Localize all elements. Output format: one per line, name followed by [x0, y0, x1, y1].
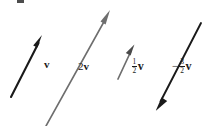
arrow-neg-three-halves-v-head [156, 98, 168, 111]
label-v: v [44, 59, 50, 70]
arrow-half-v-shaft [118, 52, 131, 80]
label-neg-three-halves-v: − 3 2 v [172, 58, 192, 74]
vector-scalar-multiples-figure: v 2v 1 2 v − 3 2 v [0, 0, 208, 126]
label-v-vector: v [44, 58, 50, 70]
arrow-v-shaft [11, 43, 39, 97]
arrow-v [11, 35, 42, 97]
label-2v: 2v [78, 61, 89, 72]
label-2v-vector: v [84, 60, 90, 72]
label-neg-three-halves-v-vector: v [186, 59, 192, 73]
arrow-2v-shaft [46, 19, 106, 126]
arrow-v-head [33, 35, 42, 48]
label-half-v: 1 2 v [131, 58, 144, 74]
arrow-half-v-head [126, 45, 135, 56]
label-neg-three-halves-v-fraction: 3 2 [179, 58, 185, 74]
label-half-v-fraction: 1 2 [132, 58, 138, 74]
arrow-2v-head [101, 10, 111, 24]
label-half-v-vector: v [138, 59, 144, 73]
label-half-v-denominator: 2 [132, 67, 138, 75]
label-neg-three-halves-v-denominator: 2 [179, 67, 185, 75]
label-neg-three-halves-v-sign: − [172, 59, 179, 73]
